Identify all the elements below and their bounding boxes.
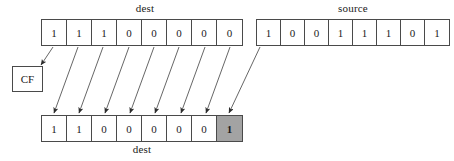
arrow-shift xyxy=(206,47,230,113)
bit-cell: 0 xyxy=(305,20,329,45)
bit-cell: 1 xyxy=(92,20,117,45)
bit-cell: 0 xyxy=(192,116,217,141)
bit-cell: 1 xyxy=(353,20,377,45)
dest-top-label: dest xyxy=(105,2,185,14)
arrow-shift xyxy=(79,47,103,113)
bit-cell: 0 xyxy=(92,116,117,141)
bit-cell: 0 xyxy=(117,20,142,45)
bit-cell: 0 xyxy=(167,20,192,45)
bit-cell: 1 xyxy=(329,20,353,45)
dest-after-row: 1 1 0 0 0 0 0 1 xyxy=(41,115,243,142)
arrow-shift xyxy=(54,47,78,113)
bit-cell: 1 xyxy=(425,20,449,45)
arrow-source-to-dest xyxy=(229,47,260,113)
bit-cell: 1 xyxy=(257,20,281,45)
source-label: source xyxy=(313,2,393,14)
source-row: 1 0 0 1 1 1 0 1 xyxy=(256,19,450,46)
dest-before-row: 1 1 1 0 0 0 0 0 xyxy=(41,19,243,46)
bit-cell: 0 xyxy=(217,20,242,45)
arrow-shift xyxy=(155,47,179,113)
bit-cell: 1 xyxy=(67,20,92,45)
bit-cell: 0 xyxy=(281,20,305,45)
carry-flag-box: CF xyxy=(12,66,43,92)
bit-cell: 1 xyxy=(42,20,67,45)
bit-cell: 1 xyxy=(42,116,67,141)
bit-cell: 0 xyxy=(192,20,217,45)
bit-cell: 0 xyxy=(401,20,425,45)
arrow-to-cf xyxy=(41,47,53,65)
shift-diagram: dest source 1 1 1 0 0 0 0 0 1 0 0 1 1 1 … xyxy=(0,0,454,161)
carry-flag-label: CF xyxy=(21,73,34,85)
dest-bottom-label: dest xyxy=(102,143,182,155)
bit-cell: 0 xyxy=(167,116,192,141)
bit-cell: 0 xyxy=(142,20,167,45)
bit-cell-highlighted: 1 xyxy=(217,116,242,141)
bit-cell: 0 xyxy=(142,116,167,141)
arrow-shift xyxy=(181,47,205,113)
bit-cell: 1 xyxy=(377,20,401,45)
bit-cell: 0 xyxy=(117,116,142,141)
arrow-shift xyxy=(105,47,129,113)
bit-cell: 1 xyxy=(67,116,92,141)
arrow-shift xyxy=(130,47,154,113)
